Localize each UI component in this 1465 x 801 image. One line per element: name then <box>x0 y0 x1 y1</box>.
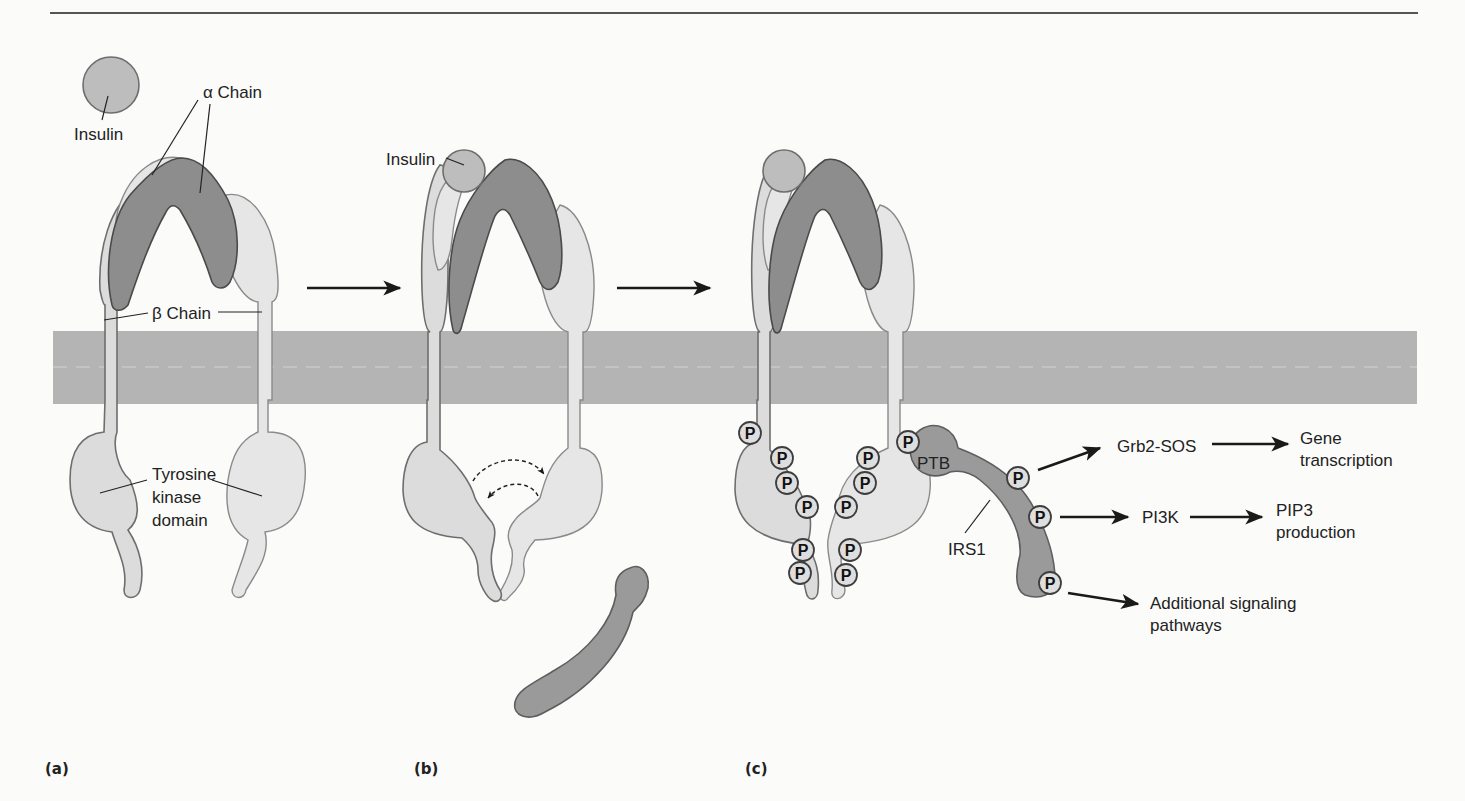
svg-text:P: P <box>802 499 813 516</box>
insulin-receptor-figure: Insulin α Chain β Chain Tyrosine kinase … <box>0 0 1465 801</box>
phosphate-icon: P <box>771 447 793 469</box>
svg-text:P: P <box>782 475 793 492</box>
phosphate-icon: P <box>1039 572 1061 594</box>
phosphate-icon: P <box>835 564 857 586</box>
additional-pathways-line1: Additional signaling <box>1150 594 1297 613</box>
panel-label-c: (c) <box>745 760 768 778</box>
panel-label-b: (b) <box>414 760 438 778</box>
grb2-sos-label: Grb2-SOS <box>1117 437 1196 456</box>
svg-text:P: P <box>1035 509 1046 526</box>
svg-text:P: P <box>860 475 871 492</box>
phosphate-icon: P <box>796 496 818 518</box>
alpha-chain-label: α Chain <box>203 83 262 102</box>
svg-text:P: P <box>841 567 852 584</box>
phosphate-icon: P <box>1007 467 1029 489</box>
arrow-to-additional-pathways <box>1068 593 1138 604</box>
gene-transcription-line1: Gene <box>1300 429 1342 448</box>
svg-text:P: P <box>798 542 809 559</box>
panel-b-receptor <box>403 150 648 717</box>
ptb-domain-label: PTB <box>917 454 950 473</box>
insulin-label-a: Insulin <box>74 125 123 144</box>
svg-text:P: P <box>1045 575 1056 592</box>
pip3-production-line2: production <box>1276 523 1355 542</box>
phosphate-icon: P <box>854 472 876 494</box>
phosphate-icon: P <box>739 422 761 444</box>
svg-text:P: P <box>841 499 852 516</box>
tk-label-line3: domain <box>152 511 208 530</box>
phosphate-icon: P <box>839 539 861 561</box>
tk-label-line1: Tyrosine <box>152 465 216 484</box>
phosphate-icon: P <box>835 496 857 518</box>
irs1-label: IRS1 <box>948 540 986 559</box>
phosphate-icon: P <box>857 447 879 469</box>
beta-chain-label: β Chain <box>152 304 211 323</box>
svg-text:P: P <box>863 450 874 467</box>
gene-transcription-line2: transcription <box>1300 451 1393 470</box>
additional-pathways-line2: pathways <box>1150 616 1222 635</box>
phosphate-icon: P <box>792 539 814 561</box>
phosphate-icon: P <box>789 562 811 584</box>
svg-text:P: P <box>777 450 788 467</box>
svg-text:P: P <box>903 434 914 451</box>
svg-text:P: P <box>845 542 856 559</box>
pi3k-label: PI3K <box>1142 508 1180 527</box>
phosphate-icon: P <box>897 431 919 453</box>
arrow-to-grb2-sos <box>1038 448 1100 470</box>
svg-text:P: P <box>745 425 756 442</box>
phosphate-icon: P <box>776 472 798 494</box>
svg-text:P: P <box>795 565 806 582</box>
phosphate-icon: P <box>1029 506 1051 528</box>
panel-label-a: (a) <box>45 760 69 778</box>
svg-text:P: P <box>1013 470 1024 487</box>
pip3-production-line1: PIP3 <box>1276 501 1313 520</box>
tk-label-line2: kinase <box>152 488 201 507</box>
irs1-leader <box>965 500 990 533</box>
insulin-label-b: Insulin <box>386 150 435 169</box>
